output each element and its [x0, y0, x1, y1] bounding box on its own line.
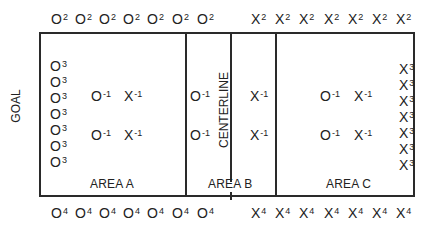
player-o3: O3 [50, 155, 67, 169]
player-o4: O4 [51, 206, 68, 220]
player-o2: O2 [123, 12, 140, 26]
player-o2: O2 [51, 12, 68, 26]
player-x4: X4 [299, 206, 314, 220]
player-x3: X3 [399, 126, 414, 140]
player-x-minus1: X-1 [124, 89, 142, 103]
player-o4: O4 [123, 206, 140, 220]
goal-label: GOAL [10, 86, 22, 126]
player-x2: X2 [348, 12, 363, 26]
player-o-minus1: O-1 [190, 128, 210, 142]
player-o-minus1: O-1 [91, 89, 111, 103]
player-o4: O4 [172, 206, 189, 220]
player-x-minus1: X-1 [124, 128, 142, 142]
player-o-minus1: O-1 [91, 128, 111, 142]
player-x4: X4 [251, 206, 266, 220]
player-x-minus1: X-1 [250, 89, 268, 103]
player-x4: X4 [275, 206, 290, 220]
player-x3: X3 [399, 158, 414, 172]
player-o3: O3 [50, 107, 67, 121]
centerline-tick [230, 192, 232, 200]
player-o2: O2 [172, 12, 189, 26]
player-x-minus1: X-1 [354, 89, 372, 103]
player-o-minus1: O-1 [320, 128, 340, 142]
player-x3: X3 [399, 62, 414, 76]
player-x4: X4 [372, 206, 387, 220]
player-o2: O2 [147, 12, 164, 26]
player-x4: X4 [348, 206, 363, 220]
player-x3: X3 [399, 110, 414, 124]
player-x4: X4 [324, 206, 339, 220]
player-x3: X3 [399, 78, 414, 92]
player-o-minus1: O-1 [190, 89, 210, 103]
field-top-border [39, 32, 415, 34]
area-a-label: AREA A [90, 178, 134, 190]
player-o3: O3 [50, 75, 67, 89]
field-bottom-border [39, 195, 415, 197]
area-c-label: AREA C [326, 178, 371, 190]
player-o2: O2 [99, 12, 116, 26]
field-left-border [39, 32, 41, 197]
player-x3: X3 [399, 142, 414, 156]
player-x2: X2 [324, 12, 339, 26]
player-x2: X2 [299, 12, 314, 26]
area-b-label: AREA B [208, 178, 253, 190]
player-x-minus1: X-1 [250, 128, 268, 142]
player-o3: O3 [50, 59, 67, 73]
player-o4: O4 [99, 206, 116, 220]
player-o4: O4 [147, 206, 164, 220]
player-x2: X2 [372, 12, 387, 26]
player-o2: O2 [75, 12, 92, 26]
player-o2: O2 [197, 12, 214, 26]
player-x4: X4 [396, 206, 411, 220]
player-o-minus1: O-1 [320, 89, 340, 103]
player-x-minus1: X-1 [354, 128, 372, 142]
player-x2: X2 [251, 12, 266, 26]
player-x3: X3 [399, 94, 414, 108]
player-o3: O3 [50, 123, 67, 137]
area-a-b-divider [185, 32, 187, 197]
player-x2: X2 [396, 12, 411, 26]
player-o3: O3 [50, 91, 67, 105]
centerline-label: CENTERLINE [218, 70, 230, 150]
player-o3: O3 [50, 139, 67, 153]
player-o4: O4 [197, 206, 214, 220]
area-b-c-divider [275, 32, 277, 197]
player-o4: O4 [75, 206, 92, 220]
player-x2: X2 [275, 12, 290, 26]
